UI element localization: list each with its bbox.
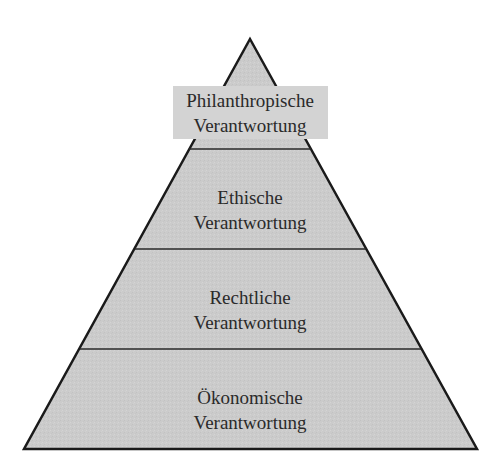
tier-label-line2: Verantwortung: [130, 210, 370, 235]
tier-label-line2: Verantwortung: [130, 410, 370, 435]
tier-label-legal: Rechtliche Verantwortung: [130, 285, 370, 335]
tier-label-line1: Philanthropische: [130, 88, 370, 113]
tier-label-line2: Verantwortung: [130, 113, 370, 138]
tier-label-line2: Verantwortung: [130, 310, 370, 335]
tier-label-line1: Rechtliche: [130, 285, 370, 310]
csr-pyramid-diagram: Philanthropische Verantwortung Ethische …: [0, 0, 500, 472]
tier-label-ethical: Ethische Verantwortung: [130, 185, 370, 235]
tier-label-line1: Ökonomische: [130, 385, 370, 410]
tier-label-economic: Ökonomische Verantwortung: [130, 385, 370, 435]
tier-label-philanthropic: Philanthropische Verantwortung: [130, 88, 370, 138]
tier-label-line1: Ethische: [130, 185, 370, 210]
